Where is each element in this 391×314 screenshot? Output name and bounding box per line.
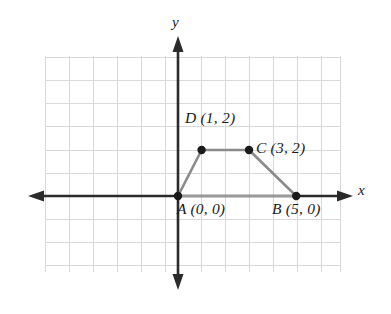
coordinate-plane-figure: D (1, 2) C (3, 2) A (0, 0) B (5, 0) x y [0, 0, 391, 314]
y-axis [173, 36, 184, 290]
point-label-A: A (0, 0) [177, 200, 225, 218]
vertex-dot-C [245, 146, 253, 154]
x-axis-left-arrowhead [28, 191, 44, 202]
vertex-dot-B [292, 192, 300, 200]
x-axis-label: x [358, 182, 365, 199]
y-axis-top-arrowhead [173, 36, 184, 52]
point-label-C: C (3, 2) [256, 139, 305, 157]
grid-horizontal-lines [45, 58, 341, 266]
vertex-dot-A [174, 192, 182, 200]
y-axis-label: y [172, 14, 179, 31]
coordinate-plane-svg [0, 0, 391, 314]
point-label-D: D (1, 2) [185, 109, 235, 127]
vertex-dot-D [197, 146, 205, 154]
y-axis-bottom-arrowhead [173, 274, 184, 290]
point-label-B: B (5, 0) [272, 200, 321, 218]
x-axis-right-arrowhead [337, 191, 353, 202]
